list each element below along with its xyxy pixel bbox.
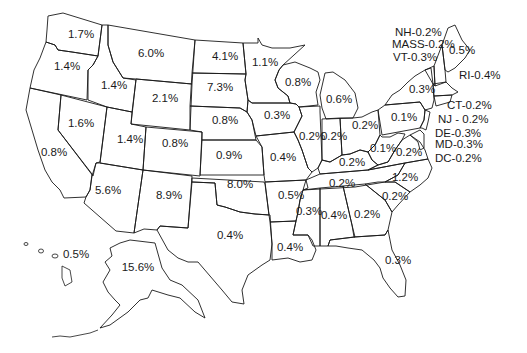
callout-label-vt: VT-0.3% [393,52,437,64]
state-label-nd: 4.1% [212,51,238,63]
state-label-id: 1.4% [101,80,127,92]
state-outline-ak [100,240,205,328]
state-label-pa: 0.1% [391,112,417,124]
state-label-sd: 7.3% [207,82,233,94]
state-label-nm: 8.9% [156,190,182,202]
state-label-co: 0.8% [162,138,188,150]
callout-label-dc: DC-0.2% [435,153,482,165]
callout-label-nh: NH-0.2% [395,27,442,39]
state-label-az: 5.6% [95,185,121,197]
callout-label-md: MD-0.3% [435,139,483,151]
state-label-or: 1.4% [54,61,80,73]
callout-label-nj: NJ - 0.2% [438,114,489,126]
state-label-ak: 15.6% [122,262,155,274]
state-outline-co [143,127,202,176]
state-outline-id [88,25,136,112]
state-label-ne: 0.8% [212,115,238,127]
callout-label-ri: RI-0.4% [459,70,501,82]
state-label-sc: 0.2% [382,191,408,203]
state-outline-mn [243,38,305,103]
state-label-al: 0.4% [321,210,347,222]
hawaii-island-big [62,266,72,286]
state-label-ms: 0.3% [296,206,322,218]
state-outline-nj [420,110,430,130]
state-label-nv: 1.6% [68,118,94,130]
state-label-tn: 0.2% [329,178,355,190]
state-label-ut: 1.4% [117,134,143,146]
state-label-wa: 1.7% [68,29,94,41]
state-label-ia: 0.3% [264,110,290,122]
state-outline-az [84,163,143,233]
state-label-hi: 0.5% [63,249,89,261]
state-label-ok: 8.0% [227,179,253,191]
state-label-tx: 0.4% [217,230,243,242]
state-label-wi: 0.8% [285,77,311,89]
hawaii-island-1 [24,243,28,246]
state-label-ks: 0.9% [216,150,242,162]
state-label-oh: 0.2% [352,120,378,132]
state-outline-ca [26,88,92,198]
state-label-fl: 0.3% [385,255,411,267]
state-label-wv: 0.1% [370,143,396,155]
state-label-ar: 0.5% [278,190,304,202]
state-label-la: 0.4% [277,242,303,254]
state-outline-nv [58,95,107,176]
state-label-ny: 0.3% [409,84,435,96]
state-label-ky: 0.2% [339,157,365,169]
alaska-aleutians [52,330,98,337]
state-label-nc: 1.2% [392,172,418,184]
state-label-mn: 1.1% [252,57,278,69]
state-outline-ma [433,82,458,96]
state-label-in: 0.2% [321,131,347,143]
hawaii-island-3 [52,254,58,258]
state-label-va: 0.2% [396,147,422,159]
state-label-ga: 0.2% [354,209,380,221]
state-label-mo: 0.4% [270,152,296,164]
state-label-wy: 2.1% [152,93,178,105]
state-label-mi: 0.6% [326,94,352,106]
callout-label-ma: MASS-0.2% [392,39,455,51]
state-label-ca: 0.8% [41,147,67,159]
state-label-mt: 6.0% [138,48,164,60]
callout-label-ct: CT-0.2% [447,100,492,112]
hawaii-island-2 [39,249,44,253]
